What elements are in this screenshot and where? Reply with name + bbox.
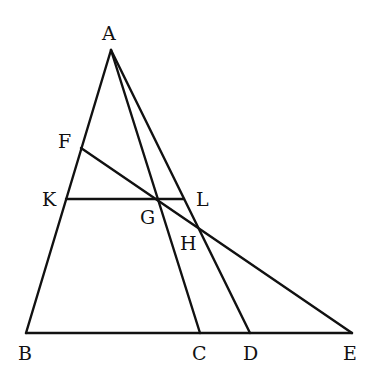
label-G: G [140, 208, 155, 227]
label-H: H [180, 234, 197, 253]
label-E: E [343, 344, 357, 363]
label-C: C [192, 344, 207, 363]
label-B: B [18, 344, 32, 363]
label-L: L [196, 190, 209, 209]
label-K: K [42, 190, 56, 209]
segment-AD [111, 50, 250, 333]
label-F: F [58, 132, 71, 151]
segment-AB [26, 50, 111, 333]
segment-FE [81, 148, 352, 333]
label-A: A [102, 24, 116, 43]
geometry-diagram: A F K G L H B C D E [0, 0, 379, 383]
segment-AC [111, 50, 200, 333]
label-D: D [243, 344, 258, 363]
diagram-lines [0, 0, 379, 383]
